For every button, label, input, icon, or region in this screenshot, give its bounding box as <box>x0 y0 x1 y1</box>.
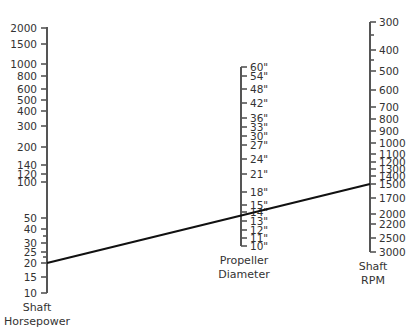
tick-label: 20 <box>24 257 37 269</box>
tick-label: 24" <box>250 153 268 165</box>
tick-label: 700 <box>379 101 399 113</box>
tick-label: 2000 <box>10 22 37 34</box>
reading-line <box>47 184 370 263</box>
tick-label: 400 <box>17 105 37 117</box>
axis-title: Horsepower <box>4 315 70 328</box>
tick-label: 10 <box>24 287 37 299</box>
axis-rpm: 3004005006007008009001000110012001300140… <box>359 16 406 287</box>
tick-label: 300 <box>17 120 37 132</box>
tick-label: 200 <box>17 141 37 153</box>
axis-title: Shaft <box>23 301 52 314</box>
tick-label: 21" <box>250 168 268 180</box>
tick-label: 27" <box>250 139 268 151</box>
tick-label: 2200 <box>379 218 406 230</box>
nomogram: 2000150010008006005004003002001401201005… <box>0 0 417 333</box>
reading-line-layer <box>47 184 370 263</box>
tick-label: 1700 <box>379 192 406 204</box>
tick-label: 800 <box>379 113 399 125</box>
tick-label: 48" <box>250 83 268 95</box>
tick-label: 100 <box>17 176 37 188</box>
tick-label: 10" <box>250 240 268 252</box>
tick-label: 15 <box>24 271 37 283</box>
axis-title: Propeller <box>220 254 269 267</box>
tick-label: 500 <box>379 65 399 77</box>
tick-label: 1000 <box>10 58 37 70</box>
axis-diameter: 60"54"48"42"36"33"30"27"24"21"18"15"14"1… <box>218 61 270 281</box>
tick-label: 42" <box>250 97 268 109</box>
tick-label: 1500 <box>10 38 37 50</box>
tick-label: 900 <box>379 125 399 137</box>
tick-label: 40 <box>24 223 37 235</box>
tick-label: 54" <box>250 70 268 82</box>
tick-label: 300 <box>379 16 399 28</box>
tick-label: 600 <box>379 84 399 96</box>
tick-label: 3000 <box>379 246 406 258</box>
axes-layer: 2000150010008006005004003002001401201005… <box>4 16 406 328</box>
tick-label: 400 <box>379 44 399 56</box>
tick-label: 1500 <box>379 178 406 190</box>
axis-title: Diameter <box>218 268 270 281</box>
axis-horsepower: 2000150010008006005004003002001401201005… <box>4 22 70 328</box>
axis-title: RPM <box>361 274 385 287</box>
tick-label: 800 <box>17 70 37 82</box>
tick-label: 18" <box>250 186 268 198</box>
tick-label: 2500 <box>379 232 406 244</box>
axis-title: Shaft <box>359 260 388 273</box>
